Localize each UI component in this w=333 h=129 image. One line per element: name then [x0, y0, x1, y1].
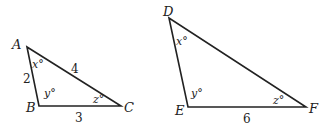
- angle-e-label: y°: [190, 87, 203, 100]
- side-ab-label: 2: [23, 72, 31, 86]
- similar-triangles-diagram: A B C x° y° z° 2 4 3 D E F x° y° z° 6: [0, 0, 333, 129]
- side-ac-label: 4: [71, 62, 79, 76]
- side-bc-label: 3: [75, 111, 83, 125]
- triangle-def: D E F x° y° z° 6: [162, 4, 319, 126]
- angle-b-label: y°: [43, 87, 56, 100]
- triangle-def-edges: [169, 18, 306, 107]
- triangle-abc-edges: [27, 47, 121, 106]
- angle-a-label: x°: [32, 58, 44, 71]
- vertex-d-label: D: [162, 4, 174, 19]
- vertex-e-label: E: [174, 103, 185, 118]
- vertex-c-label: C: [124, 100, 134, 115]
- angle-c-label: z°: [92, 93, 104, 106]
- angle-f-label: z°: [272, 94, 284, 107]
- vertex-a-label: A: [11, 37, 21, 52]
- vertex-f-label: F: [308, 101, 319, 116]
- vertex-b-label: B: [25, 100, 36, 115]
- angle-d-label: x°: [176, 35, 188, 48]
- side-ef-label: 6: [243, 112, 251, 126]
- triangle-abc: A B C x° y° z° 2 4 3: [11, 37, 134, 125]
